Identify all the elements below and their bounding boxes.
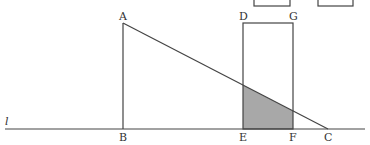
label-line-l: l	[5, 115, 9, 128]
label-C: C	[324, 131, 332, 144]
label-G: G	[289, 10, 298, 23]
segment-AC	[123, 23, 328, 129]
label-A: A	[118, 10, 128, 23]
top-box-left	[254, 0, 290, 6]
label-D: D	[239, 10, 248, 23]
label-B: B	[119, 131, 127, 144]
top-box-right	[318, 0, 353, 6]
geometry-diagram: l A B C D G E F	[0, 0, 370, 145]
label-F: F	[289, 131, 297, 144]
label-E: E	[239, 131, 247, 144]
